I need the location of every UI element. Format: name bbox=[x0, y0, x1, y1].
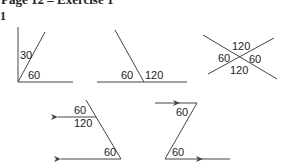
figure-1-right-angle: 30 60 bbox=[18, 27, 73, 82]
angle-label: 120 bbox=[232, 40, 250, 52]
angle-label: 60 bbox=[249, 53, 261, 65]
figure-3-vertical-angles: 120 60 60 120 bbox=[203, 35, 277, 79]
angle-label: 60 bbox=[28, 69, 40, 81]
angle-label: 120 bbox=[74, 117, 92, 129]
angle-label: 60 bbox=[176, 106, 188, 118]
angle-label: 60 bbox=[121, 69, 133, 81]
figure-5-alternate-angles: 60 60 bbox=[155, 100, 230, 162]
angle-label: 60 bbox=[104, 146, 116, 158]
angle-label: 60 bbox=[74, 104, 86, 116]
angle-label: 30 bbox=[20, 49, 32, 61]
angle-label: 120 bbox=[145, 69, 163, 81]
angle-label: 60 bbox=[218, 52, 230, 64]
angle-label: 120 bbox=[230, 64, 248, 76]
figure-2-straight-line: 60 120 bbox=[97, 30, 187, 82]
figure-4-co-interior-angles: 60 120 60 bbox=[58, 100, 121, 159]
angle-label: 60 bbox=[172, 146, 184, 158]
angle-diagrams: 30 60 60 120 120 60 60 120 60 120 60 60 … bbox=[0, 0, 287, 168]
